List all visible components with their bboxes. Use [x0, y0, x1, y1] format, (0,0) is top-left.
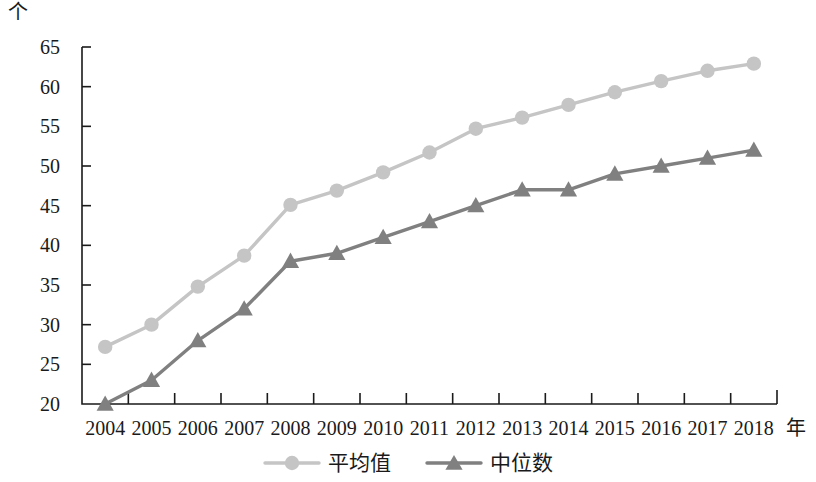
data-point-circle-marker [700, 64, 714, 78]
legend-label: 中位数 [490, 453, 553, 474]
data-point-circle-marker [237, 248, 251, 262]
data-point-circle-marker [283, 198, 297, 212]
chart-plot-area [0, 0, 816, 482]
legend-item[interactable]: 中位数 [425, 452, 553, 474]
data-point-triangle-marker [745, 142, 762, 157]
data-point-circle-marker [422, 145, 436, 159]
chart-container: 个 年 65605550454035302520 200420052006200… [0, 0, 816, 482]
x-axis-ticks [128, 393, 730, 404]
data-point-triangle-marker [97, 395, 114, 410]
y-axis-ticks [82, 87, 91, 365]
data-point-circle-marker [654, 74, 668, 88]
data-point-circle-marker [191, 279, 205, 293]
legend-label: 平均值 [328, 453, 391, 474]
data-point-circle-marker [376, 165, 390, 179]
circle-marker-icon [263, 452, 321, 474]
data-point-circle-marker [608, 85, 622, 99]
chart-series-median [97, 142, 763, 411]
data-point-circle-marker [747, 56, 761, 70]
chart-series-mean [98, 56, 761, 354]
data-point-circle-marker [515, 110, 529, 124]
triangle-marker-icon [425, 452, 483, 474]
data-point-circle-marker [330, 183, 344, 197]
data-point-circle-marker [469, 122, 483, 136]
chart-legend: 平均值中位数 [0, 452, 816, 474]
data-point-circle-marker [144, 317, 158, 331]
data-point-triangle-marker [189, 332, 206, 347]
data-point-circle-marker [561, 98, 575, 112]
legend-item[interactable]: 平均值 [263, 452, 391, 474]
data-point-circle-marker [98, 340, 112, 354]
